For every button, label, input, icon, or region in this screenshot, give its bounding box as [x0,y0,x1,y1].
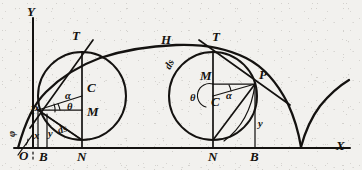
right-label-t: T [212,29,221,44]
right-label-c: C [211,94,220,109]
left-label-phi: φ [6,131,17,137]
left-label-alpha: α [65,90,71,101]
curve-label-h: H [160,32,172,47]
left-angle-theta-arc [58,104,60,110]
origin-label: O [19,148,29,163]
left-label-x: x [33,130,39,141]
right-label-m: M [199,68,212,83]
left-label-n: N [76,149,87,164]
labels-group: Y X O H T P C M N B α θ φ x y ds T P M C… [6,4,345,164]
right-label-b: B [249,149,259,164]
left-label-t: T [72,28,81,43]
right-label-ds: ds [162,58,176,71]
left-angle-alpha-arc [54,104,55,112]
left-label-p: P [30,102,39,117]
left-label-y: y [46,128,53,139]
left-label-theta: θ [67,101,73,112]
figure-canvas: Y X O H T P C M N B α θ φ x y ds T P M C… [0,0,362,170]
right-label-y: y [256,118,263,129]
left-label-m: M [86,104,99,119]
right-label-n: N [207,149,218,164]
cycloid-figure: Y X O H T P C M N B α θ φ x y ds T P M C… [0,0,362,170]
cycloid-arch-next [301,80,349,147]
x-axis-label: X [335,138,345,153]
right-label-p: P [259,67,268,82]
left-label-b: B [38,149,48,164]
left-label-c: C [87,80,96,95]
right-label-theta: θ [190,92,196,103]
y-axis-label: Y [27,4,36,19]
right-label-alpha: α [226,90,232,101]
